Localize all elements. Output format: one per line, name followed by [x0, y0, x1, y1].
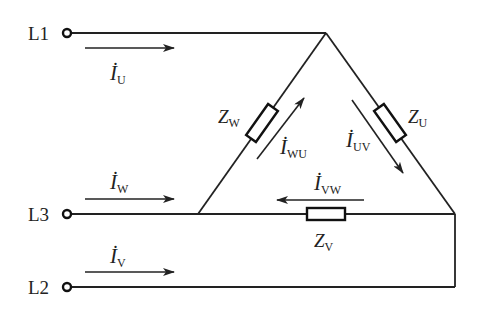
current-label-iw: İW [109, 170, 129, 196]
terminal-l1 [63, 29, 71, 37]
resistor-zu-icon [374, 104, 406, 142]
terminal-l2 [63, 283, 71, 291]
terminal-label-l3: L3 [28, 204, 49, 225]
resistor-zv-icon [307, 208, 345, 220]
impedance-label-zv: ZV [314, 230, 334, 254]
current-label-iv: İV [109, 244, 126, 270]
current-label-iuv: İUV [345, 128, 371, 154]
impedance-label-zu: ZU [408, 106, 428, 130]
current-label-iwu: İWU [279, 135, 307, 161]
terminal-l3 [63, 210, 71, 218]
terminals: L1 L3 L2 [28, 23, 71, 298]
terminal-label-l2: L2 [28, 277, 49, 298]
delta-circuit-diagram: L1 L3 L2 ZW ZU ZV İU İW İV [0, 0, 489, 317]
resistor-zw-icon [246, 104, 278, 142]
terminal-label-l1: L1 [28, 23, 49, 44]
wires [71, 33, 455, 287]
line-current-arrows: İU İW İV [85, 48, 174, 272]
impedances: ZW ZU ZV [218, 104, 428, 254]
impedance-label-zw: ZW [218, 106, 241, 130]
current-label-ivw: İVW [313, 171, 342, 197]
current-label-iu: İU [109, 61, 126, 87]
